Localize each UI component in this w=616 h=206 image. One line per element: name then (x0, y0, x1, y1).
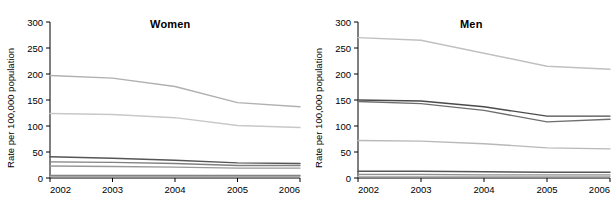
series-group-men (358, 38, 610, 177)
x-tick-group-women: 20022003200420052006 (50, 178, 300, 195)
y-axis-label-men: Rate per 100,000 population (313, 48, 324, 168)
y-tick-label: 100 (335, 121, 351, 132)
series-line-series-3 (358, 102, 610, 122)
y-tick-label: 100 (27, 121, 43, 132)
y-tick-group-women: 050100150200250300 (27, 17, 50, 184)
x-tick-label: 2002 (358, 184, 379, 195)
x-tick-label: 2005 (227, 184, 248, 195)
charts-row: Women Rate per 100,000 population 050100… (0, 0, 616, 206)
y-tick-label: 50 (32, 147, 43, 158)
x-tick-label: 2006 (279, 184, 300, 195)
chart-panel-women: Women Rate per 100,000 population 050100… (0, 0, 308, 206)
x-tick-group-men: 20022003200420052006 (358, 178, 610, 195)
y-tick-label: 200 (335, 69, 351, 80)
y-tick-label: 0 (346, 173, 351, 184)
y-tick-label: 200 (27, 69, 43, 80)
panel-title-men: Men (460, 18, 483, 30)
series-line-series-5 (358, 171, 610, 172)
x-tick-label: 2003 (410, 184, 431, 195)
series-line-series-4 (358, 141, 610, 149)
y-axis-label-women: Rate per 100,000 population (5, 48, 16, 168)
series-line-series-1 (358, 38, 610, 70)
x-tick-label: 2004 (473, 184, 494, 195)
y-tick-label: 300 (27, 17, 43, 28)
x-tick-label: 2002 (50, 184, 71, 195)
y-tick-label: 250 (27, 43, 43, 54)
y-tick-label: 0 (38, 173, 43, 184)
series-line-series-6 (358, 174, 610, 175)
series-line-series-5 (50, 166, 300, 168)
x-tick-label: 2003 (102, 184, 123, 195)
series-line-series-1 (50, 76, 300, 107)
line-chart-men: Rate per 100,000 population 050100150200… (308, 0, 616, 206)
y-tick-label: 150 (27, 95, 43, 106)
y-tick-label: 150 (335, 95, 351, 106)
x-tick-label: 2006 (589, 184, 610, 195)
series-group-women (50, 76, 300, 177)
y-tick-label: 50 (340, 147, 351, 158)
y-tick-label: 300 (335, 17, 351, 28)
series-line-series-2 (50, 114, 300, 128)
y-tick-label: 250 (335, 43, 351, 54)
line-chart-women: Rate per 100,000 population 050100150200… (0, 0, 308, 206)
x-tick-label: 2005 (536, 184, 557, 195)
panel-title-women: Women (150, 18, 191, 30)
y-tick-group-men: 050100150200250300 (335, 17, 358, 184)
x-tick-label: 2004 (164, 184, 185, 195)
chart-panel-men: Men Rate per 100,000 population 05010015… (308, 0, 616, 206)
